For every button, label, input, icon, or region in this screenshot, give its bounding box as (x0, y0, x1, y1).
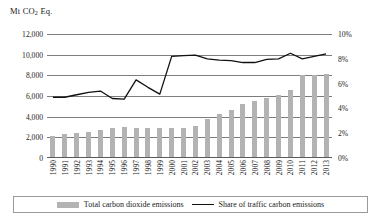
x-axis-tick-label: 2004 (215, 160, 224, 175)
y-axis-left-tick-label: 2,000 (3, 133, 43, 142)
x-axis-tick-label: 2000 (168, 160, 177, 175)
x-axis-tick-label: 1997 (132, 160, 141, 175)
line-series (47, 34, 332, 158)
x-axis-tick-label: 1990 (49, 160, 58, 175)
y-axis-left-tick-label: 8,000 (3, 71, 43, 80)
chart-legend: Total carbon dioxide emissions Share of … (13, 196, 368, 213)
legend-bar-swatch (57, 202, 79, 208)
y-axis-right-tick-label: 10% (338, 30, 368, 39)
y-axis-right-tick-label: 0% (338, 154, 368, 163)
plot-area (47, 34, 332, 158)
x-axis-labels: 1990199119921993199419951996199719981999… (47, 160, 332, 194)
x-axis-tick-label: 1999 (156, 160, 165, 175)
axis-baseline (47, 157, 332, 158)
line-path (53, 53, 326, 99)
line-path-svg (47, 34, 332, 158)
x-axis-tick-label: 1994 (96, 160, 105, 175)
x-axis-tick-label: 2002 (191, 160, 200, 175)
x-axis-tick-label: 2009 (275, 160, 284, 175)
y-axis-right-tick-label: 4% (338, 104, 368, 113)
y-axis-title: Mt CO2 Eq. (10, 6, 53, 16)
x-axis-tick-label: 1998 (144, 160, 153, 175)
x-axis-tick-label: 2003 (203, 160, 212, 175)
x-axis-tick-label: 2008 (263, 160, 272, 175)
x-axis-tick-label: 1993 (85, 160, 94, 175)
x-axis-tick-label: 1995 (108, 160, 117, 175)
x-axis-tick-label: 2005 (227, 160, 236, 175)
x-axis-tick-label: 1991 (61, 160, 70, 175)
x-axis-tick-label: 2006 (239, 160, 248, 175)
legend-item-line: Share of traffic carbon emissions (192, 200, 325, 209)
x-axis-tick-label: 2013 (322, 160, 331, 175)
legend-line-swatch (192, 204, 214, 205)
y-axis-right-tick-label: 2% (338, 129, 368, 138)
y-axis-title-suffix: Eq. (38, 6, 53, 16)
x-axis-tick-label: 2001 (180, 160, 189, 175)
y-axis-left-tick-label: 4,000 (3, 112, 43, 121)
y-axis-title-prefix: Mt CO (10, 6, 35, 16)
legend-line-label: Share of traffic carbon emissions (219, 200, 325, 209)
x-axis-tick-label: 1996 (120, 160, 129, 175)
x-axis-tick-label: 2010 (286, 160, 295, 175)
x-axis-tick-label: 2011 (298, 160, 307, 175)
y-axis-left-tick-label: 0 (3, 154, 43, 163)
y-axis-right-tick-label: 6% (338, 79, 368, 88)
x-axis-tick-label: 2007 (251, 160, 260, 175)
y-axis-left-tick-label: 6,000 (3, 92, 43, 101)
y-axis-left-tick-label: 12,000 (3, 30, 43, 39)
x-axis-tick-label: 2012 (310, 160, 319, 175)
y-axis-right-tick-label: 8% (338, 54, 368, 63)
x-axis-tick-label: 1992 (73, 160, 82, 175)
legend-item-bars: Total carbon dioxide emissions (57, 200, 184, 209)
y-axis-left-tick-label: 10,000 (3, 50, 43, 59)
legend-bar-label: Total carbon dioxide emissions (84, 200, 184, 209)
chart-container: Mt CO2 Eq. 02,0004,0006,0008,00010,00012… (0, 0, 381, 217)
